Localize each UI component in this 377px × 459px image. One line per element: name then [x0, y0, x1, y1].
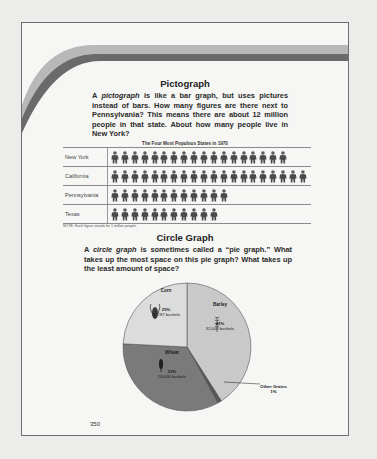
- pictograph-table: New YorkCaliforniaPennsylvaniaTexas: [63, 147, 311, 224]
- person-figure-icon: [120, 208, 130, 221]
- pictograph-row: Pennsylvania: [63, 185, 311, 204]
- person-figure-icon: [110, 208, 120, 221]
- person-figure-icon: [199, 151, 209, 164]
- person-figure-icon: [298, 170, 308, 183]
- person-figure-icon: [120, 189, 130, 202]
- figure-group: [108, 170, 308, 183]
- person-figure-icon: [159, 151, 169, 164]
- pictograph-row: Texas: [63, 204, 311, 224]
- person-figure-icon: [179, 208, 189, 221]
- person-figure-icon: [169, 208, 179, 221]
- person-figure-icon: [130, 208, 140, 221]
- state-label: Pennsylvania: [63, 186, 108, 204]
- person-figure-icon: [199, 189, 209, 202]
- person-figure-icon: [199, 208, 209, 221]
- person-figure-icon: [189, 170, 199, 183]
- person-figure-icon: [239, 151, 249, 164]
- person-figure-icon: [130, 170, 140, 183]
- person-figure-icon: [130, 189, 140, 202]
- person-figure-icon: [169, 170, 179, 183]
- figure-group: [108, 189, 229, 202]
- circle-graph-heading: Circle Graph: [22, 232, 348, 243]
- other-grains-label: Other Grains 1%: [260, 384, 287, 395]
- person-figure-icon: [169, 189, 179, 202]
- person-figure-icon: [150, 208, 160, 221]
- person-figure-icon: [120, 170, 130, 183]
- person-figure-icon: [209, 170, 219, 183]
- person-figure-icon: [239, 170, 249, 183]
- other-grains-leader-line: [222, 378, 262, 390]
- person-figure-icon: [288, 170, 298, 183]
- person-figure-icon: [268, 151, 278, 164]
- person-figure-icon: [140, 189, 150, 202]
- person-figure-icon: [169, 151, 179, 164]
- person-figure-icon: [110, 151, 120, 164]
- pictograph-row: California: [63, 166, 311, 185]
- person-figure-icon: [209, 151, 219, 164]
- person-figure-icon: [140, 208, 150, 221]
- pictograph-paragraph: A pictograph is like a bar graph, but us…: [92, 91, 288, 139]
- person-figure-icon: [219, 151, 229, 164]
- person-figure-icon: [258, 170, 268, 183]
- person-figure-icon: [209, 189, 219, 202]
- person-figure-icon: [159, 170, 169, 183]
- person-figure-icon: [140, 151, 150, 164]
- person-figure-icon: [110, 189, 120, 202]
- wheat-label: Wheat 33% 26,006 bushels: [150, 350, 194, 379]
- person-figure-icon: [229, 151, 239, 164]
- state-label: California: [63, 167, 108, 185]
- person-figure-icon: [209, 208, 219, 221]
- person-figure-icon: [150, 189, 160, 202]
- person-figure-icon: [278, 170, 288, 183]
- person-figure-icon: [189, 189, 199, 202]
- person-figure-icon: [110, 170, 120, 183]
- pictograph-note: NOTE: Each figure stands for 1 million p…: [63, 224, 137, 228]
- person-figure-icon: [189, 151, 199, 164]
- figure-group: [108, 208, 219, 221]
- page-number: 350: [90, 421, 100, 427]
- person-figure-icon: [248, 170, 258, 183]
- person-figure-icon: [258, 151, 268, 164]
- person-figure-icon: [120, 151, 130, 164]
- person-figure-icon: [248, 151, 258, 164]
- person-figure-icon: [229, 170, 239, 183]
- person-figure-icon: [150, 170, 160, 183]
- person-figure-icon: [159, 208, 169, 221]
- person-figure-icon: [150, 151, 160, 164]
- figure-group: [108, 151, 288, 164]
- person-figure-icon: [278, 151, 288, 164]
- person-figure-icon: [140, 170, 150, 183]
- pictograph-chart-title: The Four Most Populous States in 1970: [22, 141, 348, 146]
- circle-graph-paragraph: A circle graph is sometimes called a “pi…: [84, 245, 292, 274]
- state-label: Texas: [63, 205, 108, 223]
- person-figure-icon: [179, 151, 189, 164]
- person-figure-icon: [219, 170, 229, 183]
- person-figure-icon: [199, 170, 209, 183]
- pictograph-row: New York: [63, 147, 311, 166]
- person-figure-icon: [219, 189, 229, 202]
- corn-label: Corn 25% 20,787 bushels: [146, 288, 186, 317]
- person-figure-icon: [268, 170, 278, 183]
- pictograph-heading: Pictograph: [22, 78, 348, 89]
- textbook-page: Pictograph A pictograph is like a bar gr…: [21, 22, 349, 436]
- barley-label: Barley 41% 32,004 bushels: [198, 302, 242, 331]
- person-figure-icon: [179, 189, 189, 202]
- person-figure-icon: [189, 208, 199, 221]
- state-label: New York: [63, 148, 108, 166]
- person-figure-icon: [159, 189, 169, 202]
- person-figure-icon: [130, 151, 140, 164]
- person-figure-icon: [179, 170, 189, 183]
